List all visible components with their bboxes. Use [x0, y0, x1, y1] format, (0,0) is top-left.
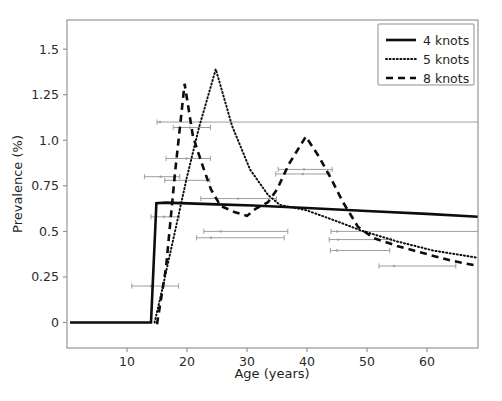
- y-tick-label: 1.0: [39, 133, 59, 148]
- chart-figure: 102030405060 00.250.50.751.01.251.5 Age …: [0, 0, 502, 401]
- legend-label: 8 knots: [423, 71, 469, 86]
- legend-label: 5 knots: [423, 52, 469, 67]
- y-tick-label: 1.25: [31, 87, 59, 102]
- x-axis-title: Age (years): [234, 366, 309, 381]
- legend-label: 4 knots: [423, 33, 469, 48]
- y-tick-label: 0.5: [39, 224, 59, 239]
- x-tick-label: 60: [419, 354, 435, 369]
- y-axis-title: Prevalence (%): [10, 135, 25, 233]
- legend: 4 knots5 knots8 knots: [378, 24, 474, 86]
- y-tick-label: 1.5: [39, 42, 59, 57]
- y-tick-label: 0.25: [31, 269, 59, 284]
- x-tick-label: 50: [359, 354, 375, 369]
- y-axis-ticks-group: 00.250.50.751.01.251.5: [31, 42, 67, 330]
- y-tick-label: 0.75: [31, 178, 59, 193]
- x-tick-label: 20: [179, 354, 195, 369]
- prevalence-vs-age-line-chart: 102030405060 00.250.50.751.01.251.5 Age …: [0, 0, 502, 401]
- legend-items-group: 4 knots5 knots8 knots: [386, 33, 469, 86]
- y-tick-label: 0: [51, 315, 59, 330]
- x-tick-label: 10: [119, 354, 135, 369]
